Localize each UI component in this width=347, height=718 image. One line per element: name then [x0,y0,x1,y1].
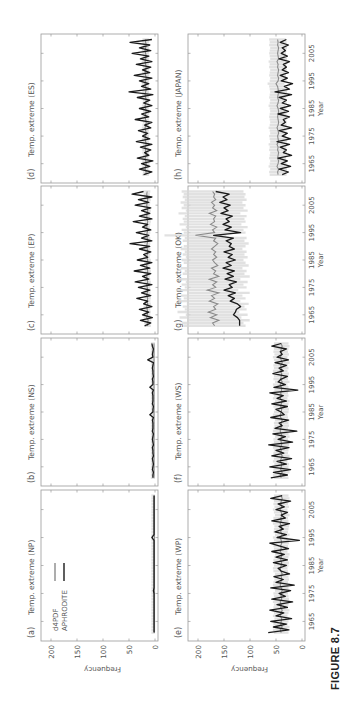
x-axis-label: Year [317,252,325,268]
x-tick-label: 1965 [308,155,316,173]
x-tick-label: 1975 [308,430,316,448]
x-tick-label: 1975 [308,278,316,296]
x-tick-label: 1995 [308,376,316,394]
panel-label: (d) [27,169,36,180]
x-tick-label: 1965 [308,306,316,324]
y-tick-label: 0 [298,645,307,650]
y-tick-label: 50 [125,645,134,655]
y-tick-label: 200 [47,645,56,659]
panel-title: Temp. extreme (JAPAN) [174,70,183,158]
legend-label: d4PDF [52,608,60,631]
x-tick-label: 2005 [308,501,316,519]
y-tick-label: 50 [272,645,281,655]
y-tick-label: 150 [73,645,82,659]
x-tick-label: 1995 [308,529,316,547]
y-tick-label: 200 [194,645,203,659]
panel-title: Temp. extreme (WS) [174,383,183,461]
y-tick-label: 0 [151,645,160,650]
panel-label: (g) [174,320,183,331]
x-tick-label: 2005 [308,348,316,366]
panel-label: (c) [27,320,36,331]
y-tick-label: 100 [246,645,255,659]
panel-h: 19651975198519952005Year(h)Temp. extreme… [174,34,325,183]
x-tick-label: 2005 [308,44,316,62]
x-tick-label: 1995 [308,224,316,242]
panel-title: Temp. extreme (OK) [174,232,183,309]
panel-g: 19651975198519952005Year(g)Temp. extreme… [164,186,325,334]
panel-label: (e) [174,627,183,638]
panel-title: Temp. extreme (EP) [27,233,36,309]
panel-label: (a) [27,627,36,638]
x-tick-label: 1965 [308,613,316,631]
panel-label: (h) [174,169,183,180]
x-tick-label: 2005 [308,196,316,214]
x-axis-label: Year [317,404,325,420]
y-axis-label: Frequency [83,665,121,674]
x-tick-label: 1985 [308,557,316,575]
x-tick-label: 1985 [308,251,316,269]
panel-f: 19651975198519952005Year(f)Temp. extreme… [174,338,325,486]
panel-e: 05010015020019651975198519952005Frequenc… [174,490,325,674]
figure-caption: FIGURE 8.7 [329,627,341,690]
panel-d: (d)Temp. extreme (ES) [27,34,158,183]
x-tick-label: 1985 [308,403,316,421]
x-axis-label: Year [317,558,325,574]
panel-b: (b)Temp. extreme (NS) [27,338,158,486]
panel-a: 050100150200Frequency(a)Temp. extreme (N… [27,490,160,674]
plot-frame [41,338,158,486]
x-tick-label: 1995 [308,72,316,90]
x-tick-label: 1975 [308,585,316,603]
panel-title: Temp. extreme (WP) [174,538,183,616]
x-axis-label: Year [317,101,325,117]
panel-label: (b) [27,472,36,483]
y-tick-label: 100 [99,645,108,659]
panel-title: Temp. extreme (ES) [27,82,36,158]
panel-title: Temp. extreme (NS) [27,384,36,461]
y-tick-label: 150 [220,645,229,659]
panel-title: Temp. extreme (NP) [27,540,36,616]
figure-8-7: 050100150200Frequency(a)Temp. extreme (N… [0,0,347,718]
y-axis-label: Frequency [230,665,268,674]
panel-label: (f) [174,474,183,483]
x-tick-label: 1965 [308,458,316,476]
legend-label: APHRODITE [61,590,69,631]
x-tick-label: 1975 [308,127,316,145]
panel-c: (c)Temp. extreme (EP) [27,186,158,334]
x-tick-label: 1985 [308,100,316,118]
